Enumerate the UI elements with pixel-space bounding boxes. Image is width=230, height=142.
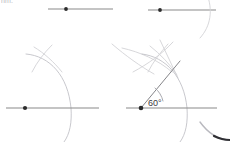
- corner-swoosh-soft: [200, 122, 228, 140]
- step-3-vertex-dot: [23, 106, 27, 110]
- construction-canvas: nm.: [0, 0, 230, 142]
- step-2-vertex-dot: [158, 8, 162, 12]
- step-3-radius-arc: [26, 54, 71, 142]
- step-2-compass-arc: [200, 0, 210, 38]
- center-arc-d: [112, 44, 154, 74]
- center-faint-construction: [112, 40, 178, 78]
- angle-label-60-degrees: 60°: [148, 98, 162, 108]
- step-1-vertex-dot: [64, 7, 68, 11]
- step-4-vertex-dot: [139, 106, 144, 111]
- panel-step-1: [48, 7, 113, 11]
- step-3-crossing-arc-a: [34, 47, 62, 72]
- center-arc-a: [122, 48, 172, 72]
- panel-step-2: [148, 0, 216, 38]
- geometry-figure: 60°: [0, 0, 230, 142]
- panel-step-4: 60°: [126, 44, 217, 142]
- panel-step-3: [6, 45, 99, 142]
- partial-caption-text: nm.: [1, 0, 13, 3]
- corner-swoosh-dark: [214, 136, 230, 140]
- corner-decoration: [200, 122, 230, 140]
